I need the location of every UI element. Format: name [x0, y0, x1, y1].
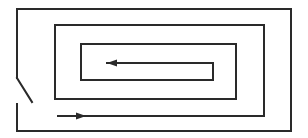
entry-arrow-head-icon [76, 113, 86, 120]
outer-wall-line [17, 9, 291, 131]
entrance-door-line [17, 78, 32, 102]
spiral-maze-diagram [0, 0, 308, 138]
inner-arrow-head-icon [107, 60, 117, 67]
direction-arrows [76, 60, 117, 120]
outer-wall [17, 9, 291, 131]
spiral-path [55, 25, 264, 116]
spiral-path-line [55, 25, 264, 116]
